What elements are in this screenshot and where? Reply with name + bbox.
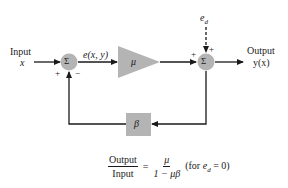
sum1-symbol: Σ: [64, 56, 69, 67]
error-signal-label: e(x, y): [83, 49, 108, 60]
output-variable: y(x): [253, 57, 270, 68]
input-label: Input: [10, 46, 31, 57]
equation-condition: (for ed = 0): [185, 160, 229, 174]
output-label: Output: [247, 45, 275, 56]
disturbance-label: ed: [200, 12, 208, 28]
sum2-symbol: Σ: [201, 56, 206, 67]
sum2-plus-top: +: [209, 44, 214, 55]
amplifier-gain-label: μ: [131, 56, 136, 67]
lhs-fraction: Output Input: [108, 154, 138, 179]
sum2-plus-left: +: [191, 49, 196, 60]
feedback-path-left: [69, 72, 126, 124]
input-variable: x: [20, 57, 24, 68]
sum1-plus-sign: +: [55, 68, 60, 79]
feedback-gain-label: β: [134, 118, 139, 129]
feedback-path-right: [152, 71, 206, 124]
rhs-fraction: μ 1 − μβ: [153, 154, 180, 179]
transfer-function-equation: Output Input = μ 1 − μβ (for ed = 0): [108, 154, 230, 179]
sum1-minus-sign: −: [75, 68, 80, 79]
equals-sign: =: [143, 161, 149, 172]
amplifier-block: [118, 46, 160, 78]
